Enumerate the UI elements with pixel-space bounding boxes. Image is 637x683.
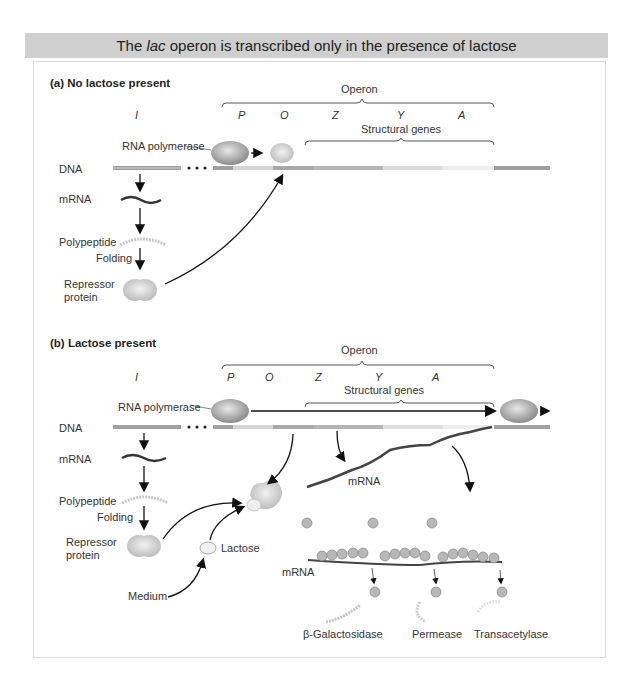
panel-a-repressor-icon bbox=[123, 279, 157, 301]
lactose-icon bbox=[200, 542, 216, 554]
medium-label: Medium bbox=[128, 590, 167, 602]
polysome-mrna-label: mRNA bbox=[282, 566, 314, 578]
polysome-icon bbox=[302, 518, 507, 597]
panel-a-gene-i: I bbox=[135, 109, 138, 121]
lactose-label: Lactose bbox=[221, 542, 260, 554]
panel-b-folding-label: Folding bbox=[97, 511, 133, 523]
panel-a-dna bbox=[113, 166, 550, 170]
product-transacetylase: Transacetylase bbox=[474, 628, 548, 640]
panel-a-folding-label: Folding bbox=[96, 252, 132, 264]
product-permease: Permease bbox=[412, 628, 462, 640]
panel-b-operon-label: Operon bbox=[341, 344, 378, 356]
panel-a-polypeptide-label: Polypeptide bbox=[59, 236, 117, 248]
panel-a-mrna-icon bbox=[121, 197, 161, 203]
panel-a-gene-z: Z bbox=[332, 109, 339, 121]
panel-b-gene-p: P bbox=[227, 371, 234, 383]
panel-b-gene-o: O bbox=[265, 371, 274, 383]
panel-a-operon-brace bbox=[222, 99, 494, 107]
panel-b-rna-polymerase-start-icon bbox=[211, 399, 249, 423]
panel-a-rna-polymerase-icon bbox=[211, 141, 249, 165]
panel-b-long-mrna-label: mRNA bbox=[348, 475, 380, 487]
panel-b-repressor-label-2: protein bbox=[66, 549, 100, 561]
panel-b-rna-polymerase-end-icon bbox=[500, 399, 538, 423]
panel-b-dna-label: DNA bbox=[59, 422, 82, 434]
panel-a-rna-polymerase-label: RNA polymerase bbox=[122, 140, 205, 152]
panel-b-long-mrna-icon bbox=[307, 427, 492, 487]
panel-a-polypeptide-icon bbox=[120, 239, 166, 245]
panel-b-gene-a: A bbox=[432, 371, 439, 383]
panel-a-repressor-label-1: Repressor bbox=[64, 278, 115, 290]
panel-b-rna-polymerase-label: RNA polymerase bbox=[118, 401, 201, 413]
product-beta-galactosidase: β-Galactosidase bbox=[303, 628, 383, 640]
panel-b-polypeptide-label: Polypeptide bbox=[59, 495, 117, 507]
panel-a-mrna-label: mRNA bbox=[59, 193, 91, 205]
panel-a-bound-repressor-icon bbox=[270, 143, 294, 163]
panel-a-gene-a: A bbox=[458, 109, 465, 121]
panel-b-gene-i: I bbox=[135, 371, 138, 383]
panel-b-repressor-icon bbox=[127, 535, 161, 557]
repressor-lactose-complex-icon bbox=[247, 480, 282, 511]
panel-a-structural-genes-label: Structural genes bbox=[361, 123, 441, 135]
panel-b-gene-z: Z bbox=[315, 371, 322, 383]
panel-b-operon-brace bbox=[222, 361, 494, 369]
panel-b-repressor-label-1: Repressor bbox=[66, 536, 117, 548]
panel-a-structural-brace bbox=[305, 138, 494, 145]
panel-a-gene-o: O bbox=[280, 109, 289, 121]
panel-b-gene-y: Y bbox=[375, 371, 382, 383]
panel-b-mrna-label: mRNA bbox=[59, 453, 91, 465]
panel-a-heading: (a) No lactose present bbox=[50, 77, 170, 89]
panel-b-structural-brace bbox=[305, 400, 494, 407]
panel-a-operon-label: Operon bbox=[341, 83, 378, 95]
panel-a-gene-p: P bbox=[238, 109, 245, 121]
panel-a-dna-label: DNA bbox=[59, 163, 82, 175]
panel-a-repressor-label-2: protein bbox=[64, 291, 98, 303]
panel-a-gene-y: Y bbox=[397, 109, 404, 121]
panel-b-heading: (b) Lactose present bbox=[50, 337, 156, 349]
panel-b-structural-genes-label: Structural genes bbox=[344, 384, 424, 396]
